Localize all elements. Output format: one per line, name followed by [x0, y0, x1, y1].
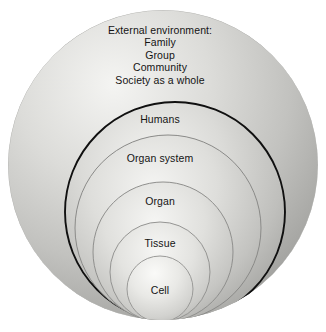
sphere-stack-graphic — [0, 0, 326, 332]
sphere-cell — [127, 256, 193, 322]
levels-of-organization-diagram: External environment: Family Group Commu… — [0, 0, 326, 332]
